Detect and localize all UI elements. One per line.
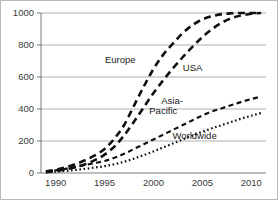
x-tick-label-2000: 2000 (143, 177, 164, 188)
x-tick-label-2005: 2005 (192, 177, 213, 188)
chart-frame: 02004006008001000 19901995200020052010 E… (0, 0, 278, 200)
x-tick-labels: 19901995200020052010 (45, 177, 262, 188)
x-tick-label-1995: 1995 (94, 177, 115, 188)
x-tick-label-2010: 2010 (241, 177, 262, 188)
y-tick-label-800: 800 (18, 39, 34, 50)
series-line-worldwide (46, 113, 261, 172)
y-tick-label-600: 600 (18, 71, 34, 82)
annotation-worldwide: Worldwide (172, 130, 216, 141)
y-axis (37, 13, 41, 173)
y-tick-label-400: 400 (18, 103, 34, 114)
y-tick-label-1000: 1000 (13, 7, 34, 18)
line-chart: 02004006008001000 19901995200020052010 E… (1, 1, 279, 201)
series-line-usa (46, 13, 261, 172)
annotation-pacific: Pacific (149, 105, 177, 116)
data-series (46, 13, 261, 172)
annotation-europe: Europe (105, 54, 136, 65)
x-tick-label-1990: 1990 (45, 177, 66, 188)
annotation-usa: USA (183, 62, 203, 73)
series-annotations: EuropeUSAAsia-PacificWorldwide (105, 54, 217, 142)
y-tick-label-200: 200 (18, 135, 34, 146)
y-tick-labels: 02004006008001000 (13, 7, 34, 178)
y-tick-label-0: 0 (29, 167, 34, 178)
